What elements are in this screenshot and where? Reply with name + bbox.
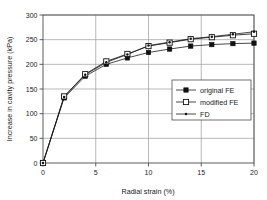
- y-tick-label: 300: [26, 12, 38, 19]
- data-point-marker: [232, 33, 235, 36]
- y-axis-title: Increase in cavity pressure (kPa): [5, 37, 14, 142]
- legend-marker-icon: [183, 99, 188, 104]
- legend-item-label: modified FE: [200, 98, 239, 107]
- chart-figure: 05101520 050100150200250300 Radial strai…: [0, 0, 267, 200]
- data-point-marker: [231, 41, 235, 45]
- x-tick-label: 15: [197, 169, 205, 176]
- x-tick-label: 0: [41, 169, 45, 176]
- y-tick-label: 0: [34, 160, 38, 167]
- legend-item-label: FD: [200, 110, 210, 119]
- legend-marker-icon: [184, 88, 188, 92]
- data-point-marker: [252, 41, 256, 45]
- x-tick-label: 5: [94, 169, 98, 176]
- data-point-marker: [189, 37, 192, 40]
- data-point-marker: [211, 35, 214, 38]
- y-tick-label: 150: [26, 86, 38, 93]
- data-point-marker: [167, 47, 171, 51]
- legend-item-label: original FE: [200, 86, 235, 95]
- chart-legend: original FEmodified FEFD: [172, 80, 251, 120]
- data-point-marker: [126, 53, 128, 56]
- data-point-marker: [84, 73, 87, 76]
- y-tick-label: 50: [30, 135, 38, 142]
- y-tick-label: 250: [26, 36, 38, 43]
- data-point-marker: [105, 61, 108, 64]
- y-tick-label: 100: [26, 110, 38, 117]
- data-point-marker: [146, 50, 150, 54]
- cavity-pressure-line-chart: 05101520 050100150200250300 Radial strai…: [0, 0, 267, 200]
- y-tick-label: 200: [26, 61, 38, 68]
- x-tick-label: 20: [250, 169, 258, 176]
- data-point-marker: [42, 162, 45, 165]
- data-point-marker: [63, 96, 66, 99]
- data-point-marker: [210, 42, 214, 46]
- x-axis-title: Radial strain (%): [121, 187, 174, 196]
- x-tick-label: 10: [145, 169, 153, 176]
- data-point-marker: [147, 44, 150, 47]
- data-point-marker: [189, 44, 193, 48]
- data-point-marker: [253, 31, 256, 33]
- legend-marker-icon: [185, 113, 188, 116]
- data-point-marker: [168, 41, 171, 44]
